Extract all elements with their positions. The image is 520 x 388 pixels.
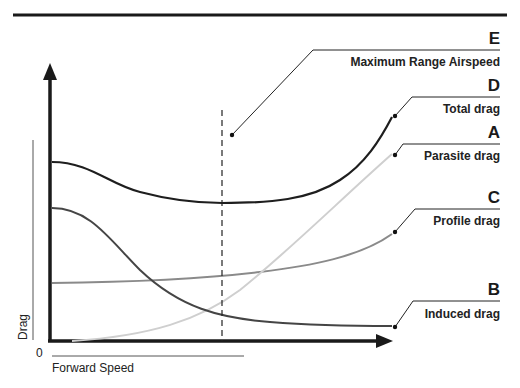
label-d-text: Total drag	[443, 102, 500, 116]
x-axis-arrow-icon	[376, 334, 393, 348]
label-a: A Parasite drag	[424, 123, 500, 163]
origin-label: 0	[36, 346, 43, 360]
label-d-letter: D	[488, 76, 500, 95]
y-axis-label: Drag	[16, 314, 30, 340]
x-axis	[48, 334, 393, 348]
drag-chart: Drag 0 Forward Speed E Maximum Range Air…	[0, 0, 520, 388]
leader-dot-icon	[393, 114, 397, 118]
label-e: E Maximum Range Airspeed	[350, 29, 500, 69]
label-c-letter: C	[488, 188, 500, 207]
y-axis-arrow-icon	[43, 63, 57, 80]
label-b-text: Induced drag	[425, 307, 500, 321]
x-axis-label: Forward Speed	[52, 361, 134, 375]
label-e-text: Maximum Range Airspeed	[350, 55, 500, 69]
label-d: D Total drag	[443, 76, 500, 116]
y-axis	[43, 63, 57, 342]
leader-dot-icon	[230, 133, 234, 137]
label-e-letter: E	[489, 29, 500, 48]
label-c: C Profile drag	[433, 188, 500, 228]
label-a-text: Parasite drag	[424, 149, 500, 163]
label-c-text: Profile drag	[433, 214, 500, 228]
label-b-letter: B	[488, 280, 500, 299]
leader-dot-icon	[393, 230, 397, 234]
leader-dot-icon	[393, 153, 397, 157]
label-a-letter: A	[488, 123, 500, 142]
leader-dot-icon	[393, 325, 397, 329]
label-leaders	[230, 50, 500, 329]
